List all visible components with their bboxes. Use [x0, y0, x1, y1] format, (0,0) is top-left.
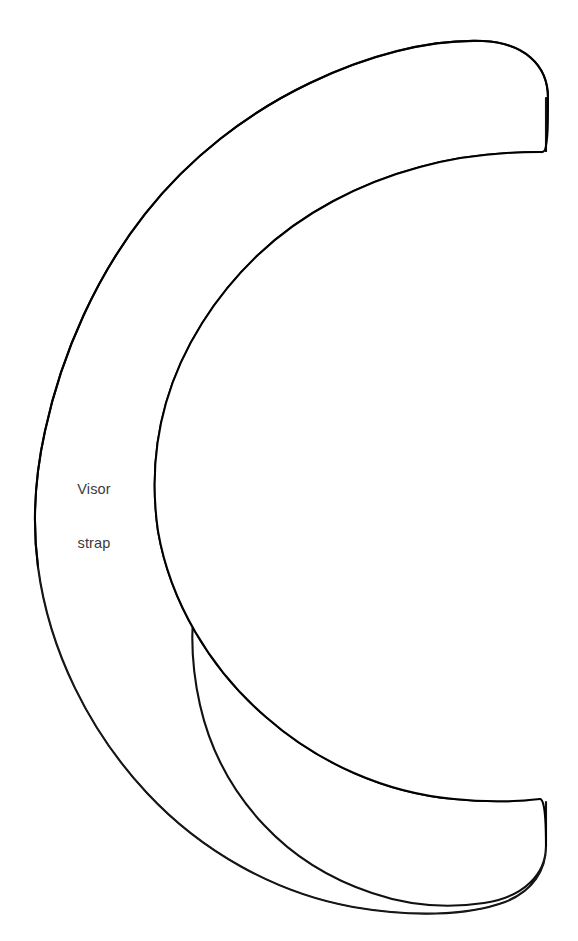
piece-label-line-1: Visor	[53, 480, 135, 498]
piece-label-line-2: strap	[53, 534, 135, 552]
pattern-sheet: Visor strap	[0, 0, 578, 941]
piece-label-visor-strap: Visor strap	[53, 444, 135, 588]
